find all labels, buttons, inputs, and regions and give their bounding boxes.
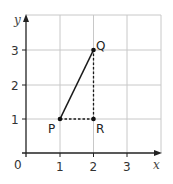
coordinate-grid-diagram: y x 0 1 2 3 1 2 3 P Q R xyxy=(0,0,173,184)
y-tick-label: 2 xyxy=(11,79,19,93)
y-axis-label: y xyxy=(13,13,21,27)
point-p-label: P xyxy=(48,122,55,136)
point-q-label: Q xyxy=(96,39,105,53)
point-p xyxy=(58,117,63,122)
tick-marks xyxy=(22,50,127,157)
origin-label: 0 xyxy=(14,158,22,172)
x-tick-label: 1 xyxy=(56,160,64,174)
y-tick-label: 1 xyxy=(11,113,19,127)
x-tick-label: 2 xyxy=(90,160,98,174)
x-tick-label: 3 xyxy=(123,160,131,174)
y-tick-label: 3 xyxy=(11,44,19,58)
grid-lines xyxy=(26,15,161,153)
x-axis-label: x xyxy=(153,158,160,172)
point-r xyxy=(91,117,96,122)
point-r-label: R xyxy=(96,122,104,136)
